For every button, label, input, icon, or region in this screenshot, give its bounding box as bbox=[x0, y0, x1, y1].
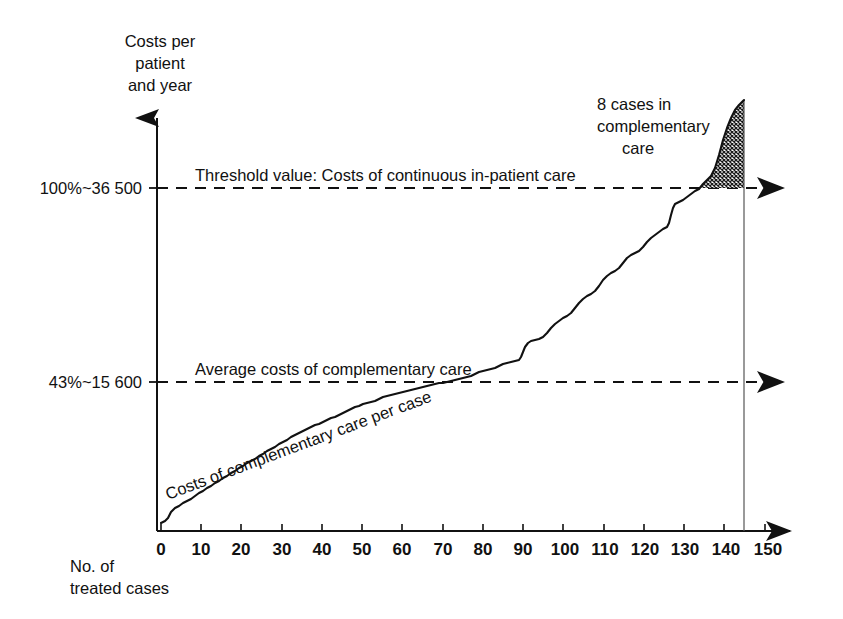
x-tick-label-10: 10 bbox=[192, 540, 211, 559]
x-tick-label-50: 50 bbox=[353, 540, 372, 559]
spike-label-line-3: care bbox=[622, 139, 654, 157]
x-tick-label-130: 130 bbox=[671, 540, 699, 559]
average-line-label: Average costs of complementary care bbox=[195, 360, 472, 378]
y-axis-title-line-1: Costs per bbox=[125, 32, 196, 50]
x-axis-title: No. of treated cases bbox=[70, 557, 169, 597]
x-tick-label-150: 150 bbox=[754, 540, 782, 559]
x-axis-title-line-2: treated cases bbox=[70, 579, 169, 597]
curve-series-label: Costs of complementary care per case bbox=[163, 387, 434, 503]
y-axis-title-line-2: patient bbox=[135, 54, 185, 72]
x-tick-label-0: 0 bbox=[156, 540, 165, 559]
x-tick-label-140: 140 bbox=[712, 540, 740, 559]
x-axis-tick-labels: 0 10 20 30 40 50 60 70 80 90 100 110 120… bbox=[156, 540, 782, 559]
chart-figure: Costs per patient and year bbox=[0, 0, 843, 619]
y-tick-label-43: 43%~15 600 bbox=[49, 373, 142, 391]
x-tick-label-90: 90 bbox=[514, 540, 533, 559]
spike-annotation: 8 cases in complementary care bbox=[597, 95, 711, 157]
threshold-line-label: Threshold value: Costs of continuous in-… bbox=[195, 166, 576, 184]
x-tick-label-100: 100 bbox=[551, 540, 579, 559]
x-tick-label-40: 40 bbox=[313, 540, 332, 559]
cost-per-case-chart: Costs per patient and year bbox=[0, 0, 843, 619]
y-tick-label-100: 100%~36 500 bbox=[40, 179, 142, 197]
x-axis-ticks bbox=[161, 524, 765, 531]
x-tick-label-70: 70 bbox=[434, 540, 453, 559]
x-axis-title-line-1: No. of bbox=[70, 557, 114, 575]
x-tick-label-80: 80 bbox=[474, 540, 493, 559]
y-axis-title-line-3: and year bbox=[128, 76, 193, 94]
y-axis-title: Costs per patient and year bbox=[125, 32, 196, 94]
spike-label-line-2: complementary bbox=[597, 117, 711, 135]
x-tick-label-60: 60 bbox=[393, 540, 412, 559]
y-axis-tick-labels: 100%~36 500 43%~15 600 bbox=[40, 179, 142, 391]
x-tick-label-20: 20 bbox=[232, 540, 251, 559]
x-tick-label-120: 120 bbox=[631, 540, 659, 559]
x-tick-label-30: 30 bbox=[273, 540, 292, 559]
x-tick-label-110: 110 bbox=[591, 540, 618, 559]
spike-label-line-1: 8 cases in bbox=[597, 95, 671, 113]
